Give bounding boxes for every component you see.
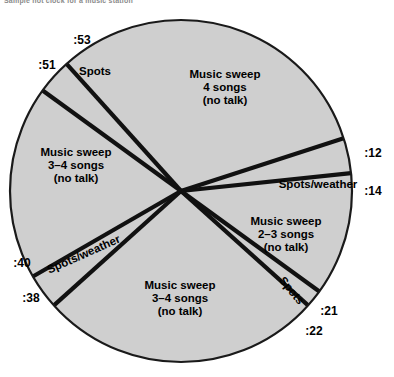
slice-label-line: 2–3 songs [258, 228, 314, 240]
tick-label-51: :51 [38, 58, 56, 72]
slice-label-line: 4 songs [203, 81, 246, 93]
slice-label-line: Music sweep [190, 68, 261, 80]
slice-label-7: Spots [79, 65, 111, 77]
slice-label-line: (no talk) [158, 305, 203, 317]
slice-label-line: 3–4 songs [152, 292, 208, 304]
slice-label-line: Spots/weather [279, 178, 358, 190]
slice-label-1: Spots/weather [279, 178, 358, 190]
tick-label-53: :53 [73, 33, 91, 47]
hot-clock-chart: Music sweep4 songs(no talk)Spots/weather… [0, 0, 394, 377]
tick-label-12: :12 [364, 146, 382, 160]
tick-label-38: :38 [22, 291, 40, 305]
slice-label-line: 3–4 songs [48, 159, 104, 171]
slice-label-line: Spots [79, 65, 111, 77]
tick-label-21: :21 [320, 304, 338, 318]
tick-label-40: :40 [13, 256, 31, 270]
slice-label-line: (no talk) [54, 172, 99, 184]
pie-chart-svg: Music sweep4 songs(no talk)Spots/weather… [0, 0, 394, 377]
slice-label-line: Music sweep [145, 279, 216, 291]
slice-label-line: Music sweep [41, 146, 112, 158]
slice-label-line: Music sweep [251, 215, 322, 227]
tick-label-14: :14 [364, 184, 382, 198]
slice-label-line: (no talk) [203, 94, 248, 106]
tick-label-22: :22 [305, 324, 323, 338]
slice-label-line: (no talk) [264, 241, 309, 253]
